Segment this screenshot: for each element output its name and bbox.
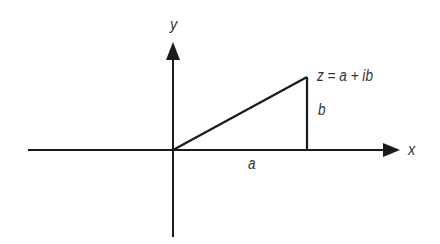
- imaginary-part-label: b: [318, 102, 326, 118]
- y-axis: [166, 42, 180, 237]
- real-part-label: a: [248, 156, 256, 172]
- y-axis-arrow-icon: [166, 42, 180, 60]
- modulus-line: [173, 77, 307, 150]
- x-axis-arrow-icon: [383, 143, 400, 157]
- point-z-label: z = a + ib: [317, 68, 373, 84]
- y-axis-label: y: [170, 16, 177, 33]
- x-axis-label: x: [408, 141, 415, 158]
- complex-plane-diagram: [0, 0, 440, 244]
- x-axis: [28, 143, 400, 157]
